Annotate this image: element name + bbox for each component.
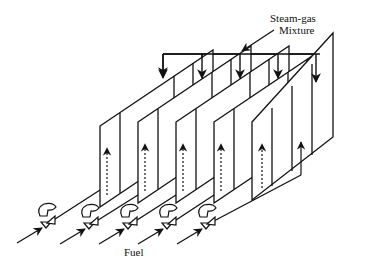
burner-1-icon — [39, 203, 56, 228]
burners — [39, 203, 216, 229]
burner-2-icon — [82, 204, 99, 229]
steam-gas-label: Steam-gas — [270, 12, 316, 24]
burner-3-icon — [121, 204, 138, 229]
mixture-label: Mixture — [279, 24, 315, 36]
fuel-inlet-arrows — [17, 228, 202, 244]
burner-4-icon — [160, 204, 177, 229]
heater-panel-diagram: Steam-gas Mixture Fuel — [0, 0, 383, 269]
panel-5 — [252, 33, 333, 200]
burner-5-icon — [199, 204, 216, 229]
fuel-label: Fuel — [124, 246, 144, 258]
steam-gas-pointer-arrow — [242, 30, 274, 51]
